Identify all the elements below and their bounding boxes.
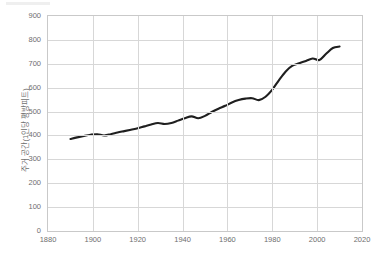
x-tick-label-1940: 1940 [174,236,191,244]
gridline-y-400 [48,135,362,136]
x-tick-label-2000: 2000 [309,236,326,244]
gridline-y-100 [48,207,362,208]
gridline-y-600 [48,88,362,89]
gridline-y-300 [48,159,362,160]
x-tick-label-1960: 1960 [219,236,236,244]
y-tick-label-300: 300 [28,155,41,163]
y-tick-label-200: 200 [28,179,41,187]
x-tick-label-1900: 1900 [85,236,102,244]
x-tick-label-1980: 1980 [264,236,281,244]
line-series-housing-space [70,47,339,139]
y-tick-label-0: 0 [37,227,41,235]
y-tick-label-400: 400 [28,131,41,139]
gridline-x-1980 [272,16,273,231]
y-tick-label-900: 900 [28,12,41,20]
gridline-y-500 [48,112,362,113]
x-tick-label-1920: 1920 [129,236,146,244]
chart-figure: 주거 공간(1인당 평방피트) 010020030040050060070080… [0,0,382,260]
gridline-y-700 [48,64,362,65]
gridline-x-1960 [227,16,228,231]
x-tick-label-2020: 2020 [354,236,371,244]
gridline-x-2000 [317,16,318,231]
y-tick-label-700: 700 [28,60,41,68]
y-tick-label-800: 800 [28,36,41,44]
y-tick-label-100: 100 [28,203,41,211]
y-tick-label-500: 500 [28,108,41,116]
gridline-x-1900 [93,16,94,231]
gridline-x-1920 [138,16,139,231]
gridline-y-800 [48,40,362,41]
gridline-x-1940 [183,16,184,231]
plot-area [47,15,363,232]
y-tick-label-600: 600 [28,84,41,92]
y-axis-tick-labels: 0100200300400500600700800900 [0,0,44,260]
x-tick-label-1880: 1880 [40,236,57,244]
gridline-y-200 [48,183,362,184]
series-layer [48,16,362,231]
